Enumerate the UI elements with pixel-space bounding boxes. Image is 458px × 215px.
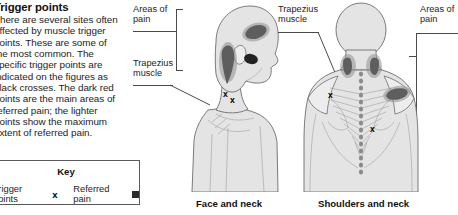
key-entries: Trigger points x Referred pain <box>0 184 139 204</box>
spine-vertebrae <box>359 71 363 174</box>
figure-face-and-neck: x x <box>182 2 290 192</box>
caption-face-and-neck: Face and neck <box>196 198 262 209</box>
key-title: Key <box>0 166 139 177</box>
caption-shoulders-and-neck: Shoulders and neck <box>318 198 409 209</box>
trigger-point-marker: x <box>328 90 333 100</box>
trigger-point-marker: x <box>223 89 228 99</box>
square-marker-icon <box>132 191 139 198</box>
label-trapezius-muscle-left: Trapezius muscle <box>133 58 173 79</box>
figure-shoulders-and-neck: x x <box>300 2 422 192</box>
article-text-column: Trigger points There are several sites o… <box>0 1 122 139</box>
label-areas-of-pain-left: Areas of pain <box>133 4 167 25</box>
key-trigger-label: Trigger points <box>0 184 47 204</box>
key-legend-box: Key Trigger points x Referred pain <box>0 160 140 205</box>
trigger-point-marker: x <box>230 95 235 105</box>
key-referred-label: Referred pain <box>73 184 127 204</box>
leader-line-areas-of-pain-right <box>416 33 458 34</box>
bracket-vertical-areas-of-pain-left <box>176 9 177 71</box>
leader-line-areas-of-pain-left <box>133 31 177 32</box>
article-body-text: There are several sites often affected b… <box>0 14 122 139</box>
page-title: Trigger points <box>0 1 122 13</box>
trigger-point-marker: x <box>370 124 375 134</box>
label-areas-of-pain-right: Areas of pain <box>420 4 454 25</box>
cross-icon: x <box>52 189 57 200</box>
leader-line-trapezius-left <box>133 85 173 86</box>
